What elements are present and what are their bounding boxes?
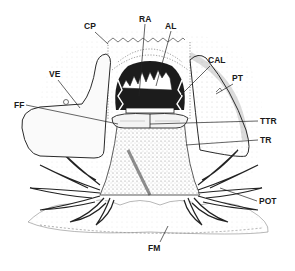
label-cp: CP xyxy=(84,21,96,31)
label-tr: TR xyxy=(260,135,271,145)
label-al: AL xyxy=(165,21,176,31)
label-ttr: TTR xyxy=(260,116,277,126)
label-ra: RA xyxy=(139,14,151,24)
label-pot: POT xyxy=(259,196,277,206)
label-pt: PT xyxy=(232,73,244,83)
label-ff: FF xyxy=(14,100,24,110)
anatomical-diagram: RA CP AL CAL PT VE FF TTR TR POT FM xyxy=(0,0,295,271)
label-ve: VE xyxy=(49,69,61,79)
label-cal: CAL xyxy=(208,55,225,65)
oral-region xyxy=(112,61,188,128)
ve-nub xyxy=(64,100,69,105)
label-fm: FM xyxy=(148,243,160,253)
